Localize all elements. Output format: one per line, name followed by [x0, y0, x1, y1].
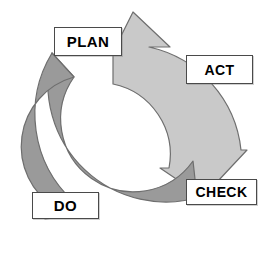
light-arc-path	[113, 12, 247, 197]
light-arc-arrow	[113, 12, 247, 197]
pdca-cycle-diagram: PLAN ACT CHECK DO	[0, 0, 261, 270]
stage-label-act[interactable]: ACT	[186, 55, 253, 84]
stage-label-do[interactable]: DO	[32, 192, 99, 219]
stage-label-plan-text: PLAN	[67, 34, 109, 49]
stage-label-act-text: ACT	[205, 63, 235, 77]
stage-label-check[interactable]: CHECK	[186, 179, 257, 205]
stage-label-plan[interactable]: PLAN	[54, 27, 122, 56]
stage-label-do-text: DO	[54, 198, 77, 213]
cycle-arrows-graphic	[0, 0, 261, 270]
stage-label-check-text: CHECK	[196, 185, 248, 199]
